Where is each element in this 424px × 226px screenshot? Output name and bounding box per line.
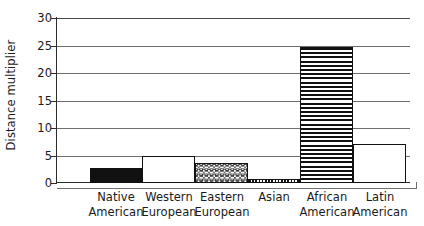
plot-area xyxy=(57,18,410,183)
x-label-line1: Native xyxy=(97,190,135,204)
x-label-line1: Latin xyxy=(366,190,395,204)
bar-western-european xyxy=(142,156,195,183)
bar-african-american xyxy=(300,47,353,183)
gridline-15 xyxy=(57,101,410,102)
gridline-10 xyxy=(57,128,410,129)
x-axis-line xyxy=(57,188,417,189)
bar-chart-figure: Distance multiplier 30 25 20 15 10 5 0 xyxy=(0,0,424,226)
y-tick-label: 10 xyxy=(30,123,52,134)
x-label-line2: American xyxy=(346,205,414,220)
bar-latin-american xyxy=(353,144,406,183)
gridline-30 xyxy=(57,18,410,19)
y-axis-title: Distance multiplier xyxy=(2,0,20,190)
x-label-line1: Western xyxy=(145,190,193,204)
y-tick-label: 30 xyxy=(30,13,52,24)
y-tick-label: 25 xyxy=(30,40,52,51)
y-tick-mark xyxy=(51,183,57,184)
x-label-line1: Eastern xyxy=(200,190,244,204)
y-tick-label: 0 xyxy=(30,178,52,189)
x-label-latin-american: Latin American xyxy=(346,190,414,220)
x-axis-end-cap xyxy=(416,182,417,189)
x-label-line1: African xyxy=(307,190,347,204)
x-axis-category-labels: Native American Western European Eastern… xyxy=(57,190,410,224)
y-axis-tick-labels: 30 25 20 15 10 5 0 xyxy=(28,0,52,226)
x-label-line2: European xyxy=(188,205,256,220)
gridline-20 xyxy=(57,73,410,74)
gridline-25 xyxy=(57,46,410,47)
x-label-line1: Asian xyxy=(258,190,290,204)
y-tick-label: 5 xyxy=(30,150,52,161)
y-tick-label: 20 xyxy=(30,68,52,79)
bar-asian xyxy=(248,179,300,183)
y-tick-label: 15 xyxy=(30,95,52,106)
bar-native-american xyxy=(90,168,142,183)
bar-eastern-european xyxy=(195,163,248,183)
